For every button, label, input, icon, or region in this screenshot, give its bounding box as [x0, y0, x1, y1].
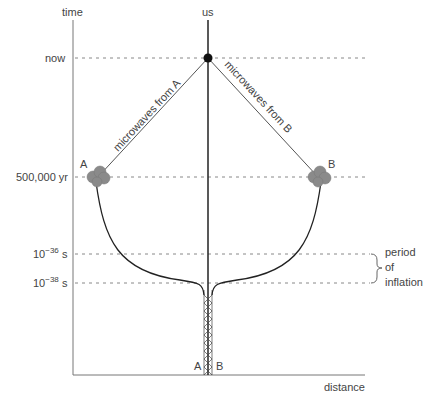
worldline-a — [96, 182, 204, 295]
microwaves-from-b-label: microwaves from B — [223, 58, 295, 135]
time-axis-label: time — [62, 6, 83, 18]
inflation-label-line3: inflation — [385, 276, 423, 288]
inflation-label-line1: period — [385, 246, 416, 258]
microwave-ray-b — [208, 58, 318, 177]
observer-label: us — [202, 6, 214, 18]
distance-axis-label: distance — [324, 381, 365, 393]
inflation-label-line2: of — [385, 261, 395, 273]
microwaves-from-a-label: microwaves from A — [111, 76, 183, 153]
observer-dot — [204, 54, 213, 63]
microwave-ray-a — [98, 58, 208, 177]
worldline-b — [212, 182, 321, 295]
bottom-label-a: A — [194, 360, 202, 372]
region-b-label: B — [328, 158, 335, 170]
1e-38s-label: 10−38 s — [33, 275, 68, 289]
500000yr-label: 500,000 yr — [16, 171, 68, 183]
region-a-label: A — [80, 158, 88, 170]
cosmic-horizon-diagram: time distance us now 500,000 yr 10−36 s … — [0, 0, 435, 402]
inflation-bracket — [371, 254, 382, 283]
now-label: now — [45, 52, 65, 64]
1e-36s-label: 10−36 s — [33, 246, 68, 260]
cloud-a-icon — [87, 166, 110, 187]
bottom-label-b: B — [216, 360, 223, 372]
